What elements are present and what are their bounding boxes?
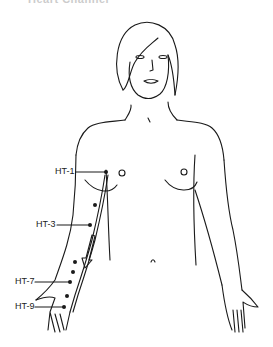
meridian-diagram: Heart Channel <box>0 0 273 347</box>
label-ht7: HT-7 <box>15 276 35 286</box>
label-ht1: HT-1 <box>55 166 75 176</box>
body-outline <box>0 0 273 347</box>
label-ht9: HT-9 <box>15 301 35 311</box>
label-ht3: HT-3 <box>36 219 56 229</box>
